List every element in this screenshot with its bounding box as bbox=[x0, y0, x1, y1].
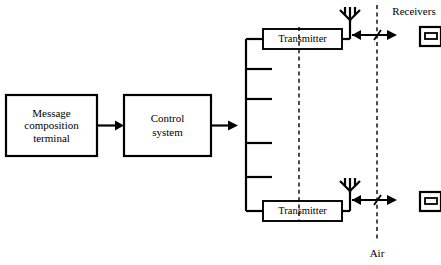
transmitter-bottom[interactable]: Transmitter bbox=[263, 201, 342, 221]
block-message-composition-terminal[interactable]: Message composition terminal bbox=[6, 95, 97, 156]
diagram-root: Message composition terminal Control sys… bbox=[0, 0, 441, 265]
arrow-icon-air-to-antenna-top bbox=[352, 30, 361, 40]
transmitter-top-label: Transmitter bbox=[278, 33, 327, 44]
transmitter-top[interactable]: Transmitter bbox=[263, 29, 342, 49]
message-composition-terminal-label-line3: terminal bbox=[33, 132, 70, 144]
transmitter-bottom-label: Transmitter bbox=[278, 205, 327, 216]
block-control-system[interactable]: Control system bbox=[124, 95, 211, 156]
arrow-icon-air-to-receiver-bottom bbox=[387, 195, 397, 205]
air-label: Air bbox=[370, 247, 385, 259]
message-composition-terminal-label-line1: Message bbox=[32, 107, 71, 119]
antenna-icon-bottom bbox=[340, 178, 360, 211]
arrow-icon-air-to-receiver-top bbox=[387, 30, 397, 40]
air-path-bottom bbox=[352, 195, 397, 205]
diagram-canvas: Message composition terminal Control sys… bbox=[0, 0, 441, 265]
connector-terminal-to-control bbox=[97, 121, 124, 131]
control-system-label-line2: system bbox=[152, 126, 183, 138]
receivers-label: Receivers bbox=[392, 5, 435, 17]
distribution-bus bbox=[246, 39, 272, 211]
receiver-icon-bottom[interactable] bbox=[420, 192, 441, 211]
arrow-icon-terminal-to-control bbox=[115, 121, 124, 131]
receiver-icon-bottom-screen bbox=[425, 198, 437, 204]
air-path-top bbox=[352, 30, 397, 40]
message-composition-terminal-label-line2: composition bbox=[24, 119, 79, 131]
receiver-icon-top[interactable] bbox=[420, 27, 441, 46]
arrow-icon-control-to-bus bbox=[228, 121, 238, 131]
connector-control-to-bus bbox=[211, 121, 238, 131]
control-system-label-line1: Control bbox=[151, 112, 185, 124]
receiver-icon-top-screen bbox=[425, 33, 437, 39]
arrow-icon-air-to-antenna-bottom bbox=[352, 195, 361, 205]
